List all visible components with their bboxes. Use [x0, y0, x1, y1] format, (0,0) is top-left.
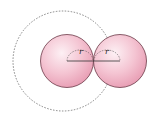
- diagram-canvas: r r: [0, 0, 160, 121]
